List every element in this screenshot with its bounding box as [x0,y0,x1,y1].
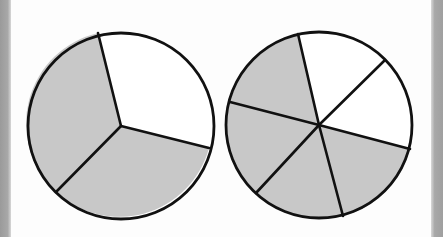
fraction-circle-thirds [26,31,214,219]
fraction-circle-sixths [226,32,412,219]
fraction-circles-diagram [0,0,443,237]
